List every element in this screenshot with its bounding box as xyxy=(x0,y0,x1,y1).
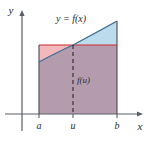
y-axis-label: y xyxy=(8,4,14,16)
tick-label-b: b xyxy=(115,120,120,131)
x-axis-arrow-icon xyxy=(137,111,143,116)
integral-mean-value-figure: y x y = f(x) f(u) a u b xyxy=(0,0,151,141)
curve-label: y = f(x) xyxy=(55,13,87,25)
x-axis-label: x xyxy=(137,120,143,132)
f-of-u-label: f(u) xyxy=(77,75,90,85)
tick-label-a: a xyxy=(37,120,42,131)
tick-label-u: u xyxy=(71,120,76,131)
figure-canvas: y x y = f(x) f(u) a u b xyxy=(0,0,151,141)
y-axis-arrow-icon xyxy=(19,10,24,16)
